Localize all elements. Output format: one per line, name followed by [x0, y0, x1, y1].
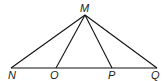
label-Q: Q	[151, 69, 160, 81]
label-P: P	[108, 69, 116, 81]
label-O: O	[50, 69, 59, 81]
segment-MP	[85, 15, 112, 68]
label-M: M	[80, 2, 90, 14]
segment-MO	[56, 15, 85, 68]
segment-MQ	[85, 15, 157, 68]
segment-MN	[11, 15, 85, 68]
label-N: N	[8, 69, 16, 81]
triangle-diagram: M N O P Q	[0, 0, 163, 81]
